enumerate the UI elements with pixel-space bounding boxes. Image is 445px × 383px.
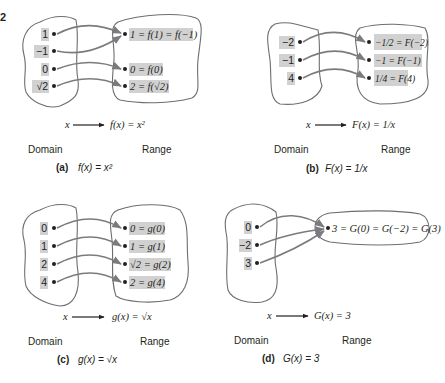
mapping-arrow (57, 36, 121, 53)
range-value: −1 = F(−1) (375, 56, 421, 67)
domain-point (52, 262, 56, 266)
domain-value: 4 (41, 276, 47, 288)
domain-value: 3 (245, 257, 251, 269)
domain-point (298, 76, 302, 80)
domain-point (52, 49, 56, 53)
range-point (123, 226, 127, 230)
range-point (367, 58, 371, 62)
domain-label: Domain (28, 336, 62, 347)
domain-blob (23, 17, 79, 107)
domain-point (255, 261, 259, 265)
mapping-output: G(x) = 3 (314, 310, 351, 322)
mapping-arrow (57, 219, 121, 228)
domain-value: −2 (239, 239, 251, 251)
domain-value: 0 (41, 222, 47, 234)
mapping-output: f(x) = x² (110, 119, 146, 131)
domain-value: 1 (42, 28, 48, 40)
domain-point (52, 226, 56, 230)
range-point (123, 32, 127, 36)
mapping-output: g(x) = √x (112, 311, 152, 323)
mapping-arrow (260, 216, 324, 227)
range-point (123, 262, 127, 266)
mapping-input: x (62, 311, 68, 322)
range-value: 1 = g(1) (130, 241, 166, 253)
domain-point (52, 32, 56, 36)
mapping-arrow (303, 69, 365, 78)
domain-value: −2 (282, 36, 294, 48)
mapping-input: x (305, 119, 311, 130)
domain-value: 4 (288, 72, 294, 84)
domain-label: Domain (234, 335, 268, 346)
caption-letter: (a) (56, 162, 68, 173)
caption-letter: (c) (57, 354, 69, 365)
range-value: 0 = g(0) (130, 223, 166, 235)
caption-letter: (b) (306, 163, 319, 174)
domain-point (298, 58, 302, 62)
domain-blob (23, 205, 79, 307)
range-point (367, 40, 371, 44)
domain-value: 2 (41, 258, 47, 270)
mapping-input: x (64, 119, 70, 130)
panel-a: 1 −1 0 √2 1 = f(1) = f(−1) 0 = f(0) 2 = … (23, 15, 201, 173)
caption-formula: g(x) = √x (78, 354, 118, 365)
caption-formula: f(x) = x² (78, 162, 113, 173)
range-label: Range (342, 335, 372, 346)
corner-mark: 2 (0, 11, 6, 23)
range-label: Range (142, 144, 172, 155)
domain-point (52, 84, 56, 88)
range-value: −1/2 = F(−2) (375, 38, 428, 49)
range-point (367, 76, 371, 80)
mapping-arrow (57, 26, 121, 34)
domain-blob (225, 204, 277, 302)
range-point (326, 226, 330, 230)
mapping-arrow (57, 273, 121, 282)
range-label: Range (140, 336, 170, 347)
mapping-input: x (266, 310, 272, 321)
range-value: 0 = f(0) (130, 64, 163, 76)
range-point (123, 280, 127, 284)
mapping-output: F(x) = 1/x (351, 119, 396, 131)
range-value: 2 = g(4) (130, 277, 166, 289)
domain-point (52, 67, 56, 71)
mapping-arrow (57, 62, 121, 69)
range-point (123, 67, 127, 71)
range-value: 2 = f(√2) (130, 81, 169, 93)
domain-point (52, 280, 56, 284)
range-value: √2 = g(2) (130, 259, 171, 271)
domain-point (298, 40, 302, 44)
mapping-arrow (303, 51, 365, 60)
caption-formula: G(x) = 3 (283, 353, 320, 364)
caption-formula: F(x) = 1/x (325, 163, 369, 174)
domain-label: Domain (28, 144, 62, 155)
domain-label: Domain (274, 144, 308, 155)
caption-letter: (d) (262, 353, 275, 364)
domain-point (52, 244, 56, 248)
range-value: 1 = f(1) = f(−1) (130, 29, 198, 41)
range-value: 1/4 = F(4) (375, 74, 415, 85)
range-point (123, 244, 127, 248)
range-point (123, 84, 127, 88)
mapping-arrow (57, 79, 121, 87)
domain-point (255, 243, 259, 247)
range-label: Range (381, 144, 411, 155)
domain-value: −1 (282, 54, 294, 66)
domain-point (255, 225, 259, 229)
panel-d: 0 −2 3 3 = G(0) = G(−2) = G(3) x G(x) = … (225, 204, 441, 364)
panel-b: −2 −1 4 −1/2 = F(−2) −1 = F(−1) 1/4 = F(… (268, 23, 429, 174)
domain-value: −1 (36, 45, 48, 57)
range-value: 3 = G(0) = G(−2) = G(3) (331, 223, 441, 235)
function-mapping-diagram: 2 1 −1 0 √2 1 = f(1) = f(−1) 0 = f(0) 2 … (0, 0, 445, 383)
domain-value: √2 (36, 80, 48, 92)
mapping-arrow (260, 231, 324, 263)
panel-c: 0 1 2 4 0 = g(0) 1 = g(1) √2 = g(2) 2 = … (23, 205, 189, 366)
mapping-arrow (57, 255, 121, 264)
domain-value: 0 (42, 63, 48, 75)
domain-value: 0 (245, 221, 251, 233)
domain-value: 1 (41, 240, 47, 252)
